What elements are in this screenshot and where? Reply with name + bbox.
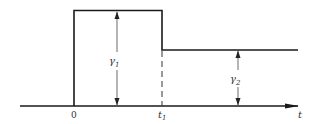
origin-label: 0: [71, 110, 77, 120]
t1-label: t1: [158, 109, 167, 122]
gamma-2-label: γ2: [230, 73, 241, 87]
waveform-diagram: γ1 γ2 0 t1 t: [0, 0, 322, 124]
gamma-2-dimension-arrow: [236, 51, 241, 106]
time-axis-label: t: [298, 109, 303, 120]
gamma-1-label: γ1: [109, 55, 119, 69]
gamma-1-dimension-arrow: [115, 12, 120, 106]
waveform-line: [74, 11, 298, 107]
